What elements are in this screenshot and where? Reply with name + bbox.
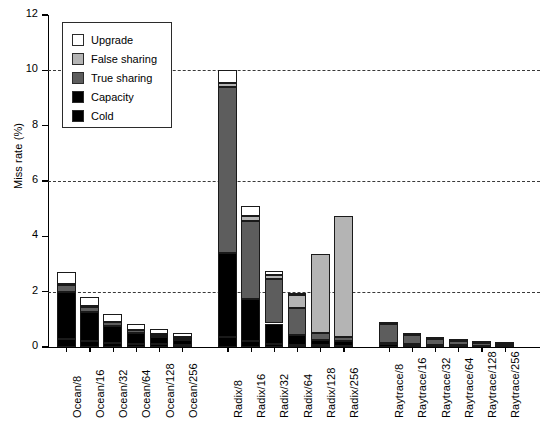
bar (379, 323, 398, 347)
legend-item: Upgrade (72, 30, 171, 49)
x-tick-label: Raytrace/16 (416, 358, 428, 418)
y-tick-label: 8 (14, 118, 38, 130)
bar-segment (241, 221, 260, 298)
bar-segment (218, 70, 237, 82)
y-tick-label: 2 (14, 284, 38, 296)
legend-swatch (72, 91, 84, 103)
bar (173, 333, 192, 347)
bar-segment (57, 285, 76, 292)
bar-segment (449, 341, 468, 346)
bar (127, 323, 146, 347)
x-tick-label: Raytrace/64 (463, 358, 475, 418)
bar-segment (80, 297, 99, 306)
bar-segment (218, 87, 237, 253)
bar-segment (103, 322, 122, 326)
bar-segment (218, 253, 237, 337)
bar-segment (379, 324, 398, 343)
bar (334, 216, 353, 347)
bar-segment (288, 293, 307, 295)
bar-segment (495, 342, 514, 344)
bar-segment (334, 337, 353, 342)
x-tick-label: Radix/32 (278, 374, 290, 418)
bar-segment (265, 271, 284, 275)
bar-segment (173, 340, 192, 345)
bar-segment (103, 314, 122, 322)
bar-segment (426, 339, 445, 345)
bar (103, 314, 122, 347)
bar (241, 206, 260, 347)
chart-legend: UpgradeFalse sharingTrue sharingCapacity… (62, 22, 172, 128)
bar-segment (265, 275, 284, 279)
bar-segment (288, 308, 307, 334)
bar-segment (379, 322, 398, 324)
bar (288, 293, 307, 348)
bar-segment (80, 307, 99, 313)
bar-segment (334, 341, 353, 345)
bar (426, 339, 445, 347)
x-tick-label: Ocean/64 (140, 369, 152, 418)
bar-segment (80, 312, 99, 341)
legend-label: Capacity (91, 91, 134, 103)
y-tick-label: 12 (14, 7, 38, 19)
y-tick-label: 6 (14, 173, 38, 185)
bar-segment (173, 333, 192, 337)
bar (449, 340, 468, 347)
bar-segment (173, 338, 192, 340)
bar-segment (150, 337, 169, 344)
bar-segment (57, 339, 76, 347)
bar-segment (311, 340, 330, 345)
x-tick-label: Raytrace/256 (509, 351, 521, 418)
x-tick-label: Radix/64 (302, 374, 314, 418)
bar-segment (127, 324, 146, 330)
y-tick-label: 0 (14, 339, 38, 351)
x-tick-label: Ocean/16 (94, 369, 106, 418)
bar-segment (449, 339, 468, 341)
x-tick-label: Ocean/8 (71, 376, 83, 418)
bar (150, 329, 169, 347)
x-tick-label: Radix/16 (255, 374, 267, 418)
bar-segment (127, 330, 146, 333)
legend-item: True sharing (72, 68, 171, 87)
chart-figure: Miss rate (%) 024681012 Ocean/8Ocean/16O… (0, 0, 547, 421)
bar-segment (150, 335, 169, 337)
bar-segment (311, 254, 330, 333)
bar-segment (265, 324, 284, 344)
legend-label: True sharing (91, 72, 152, 84)
y-axis-title: Miss rate (%) (12, 86, 24, 226)
bar (311, 254, 330, 347)
bar-segment (103, 326, 122, 342)
x-tick-label: Ocean/128 (164, 363, 176, 418)
bar-segment (472, 343, 491, 346)
bar-segment (334, 216, 353, 336)
bar (80, 297, 99, 347)
bar-segment (57, 272, 76, 284)
bar-segment (241, 299, 260, 342)
y-tick-label: 10 (14, 62, 38, 74)
x-tick-label: Ocean/256 (187, 363, 199, 418)
x-tick-label: Raytrace/128 (486, 351, 498, 418)
x-tick-label: Radix/8 (232, 380, 244, 418)
legend-label: False sharing (91, 53, 157, 65)
bar-segment (403, 335, 422, 344)
bar-segment (241, 206, 260, 216)
bar-segment (241, 216, 260, 222)
bar (403, 335, 422, 347)
legend-swatch (72, 110, 84, 122)
x-tick-label: Raytrace/8 (393, 364, 405, 418)
bar-segment (426, 337, 445, 339)
bar-segment (495, 344, 514, 346)
bar-segment (218, 337, 237, 347)
bar-segment (472, 341, 491, 343)
x-tick-label: Ocean/32 (117, 369, 129, 418)
x-axis-line (48, 347, 540, 348)
bar (265, 271, 284, 347)
x-tick-label: Radix/128 (325, 368, 337, 418)
legend-swatch (72, 53, 84, 65)
bar-segment (150, 329, 169, 334)
legend-swatch (72, 34, 84, 46)
bar-segment (57, 292, 76, 339)
legend-item: Capacity (72, 87, 171, 106)
bar-segment (218, 83, 237, 87)
x-tick-label: Radix/256 (348, 368, 360, 418)
bar-segment (127, 333, 146, 344)
